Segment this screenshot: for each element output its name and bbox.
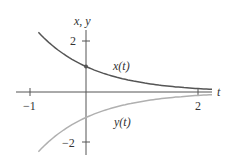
y-axis-label: x, y bbox=[73, 14, 91, 28]
initial-point bbox=[84, 65, 88, 69]
x-axis-label: t bbox=[217, 85, 221, 99]
tick-label-x-neg1: −1 bbox=[23, 99, 36, 113]
tick-label-x-2: 2 bbox=[195, 99, 201, 113]
x-curve-label: x(t) bbox=[112, 59, 130, 73]
y-curve-label: y(t) bbox=[113, 115, 131, 129]
tick-label-y-neg2: −2 bbox=[62, 136, 75, 150]
phase-plot: x, y 2 −2 −1 2 t x(t) y(t) bbox=[0, 0, 232, 164]
tick-label-y-2: 2 bbox=[70, 34, 76, 48]
